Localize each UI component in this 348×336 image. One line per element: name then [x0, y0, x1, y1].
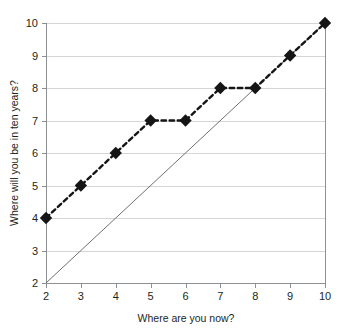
x-axis-title: Where are you now? [138, 312, 235, 324]
y-tick-label: 10 [26, 17, 38, 29]
x-tick-label: 7 [217, 290, 223, 302]
x-tick-label: 4 [113, 290, 119, 302]
x-tick-label: 6 [182, 290, 188, 302]
x-tick-label: 8 [252, 290, 258, 302]
y-tick-label: 3 [32, 245, 38, 257]
y-tick-label: 6 [32, 147, 38, 159]
y-tick-label: 2 [32, 277, 38, 289]
scatter-line-chart: 2345678910 2345678910 Where are you now?… [0, 0, 348, 336]
y-tick-label: 5 [32, 180, 38, 192]
x-tick-label: 10 [319, 290, 331, 302]
x-tick-label: 3 [78, 290, 84, 302]
chart-container: 2345678910 2345678910 Where are you now?… [0, 0, 348, 336]
y-axis-title: Where will you be in ten years? [8, 80, 20, 226]
x-tick-label: 9 [287, 290, 293, 302]
y-tick-label: 8 [32, 82, 38, 94]
x-tick-label: 2 [43, 290, 49, 302]
y-tick-label: 4 [32, 212, 38, 224]
y-tick-label: 7 [32, 115, 38, 127]
y-tick-label: 9 [32, 50, 38, 62]
x-tick-label: 5 [148, 290, 154, 302]
